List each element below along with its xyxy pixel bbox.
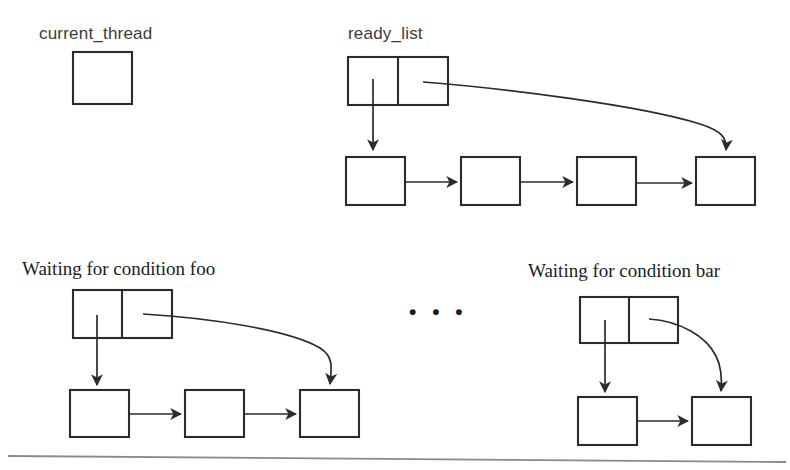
page-bottom-rule — [8, 456, 786, 462]
box-waiting-foo-node-1 — [70, 390, 129, 437]
box-ready-list-node-4 — [696, 157, 755, 205]
arrow-ready-list-tail — [423, 82, 726, 150]
box-waiting-bar-node-2 — [692, 397, 751, 445]
box-ready-list-node-1 — [346, 157, 405, 205]
box-waiting-foo-node-2 — [185, 390, 244, 437]
box-current-thread — [73, 52, 132, 104]
box-waiting-foo-node-3 — [300, 390, 359, 437]
box-waiting-bar-node-1 — [578, 397, 637, 445]
box-ready-list-node-3 — [577, 157, 636, 205]
diagram-vector-layer — [0, 0, 790, 470]
arrow-waiting-bar-tail — [649, 319, 721, 391]
diagram-canvas: current_thread ready_list Waiting for co… — [0, 0, 790, 470]
box-ready-list-node-2 — [461, 157, 520, 205]
